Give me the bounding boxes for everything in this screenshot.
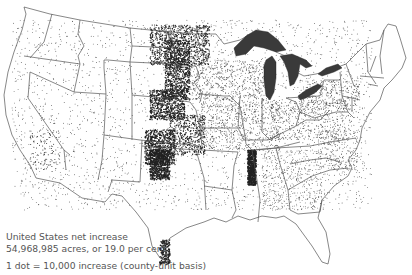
legend-dot-scale: 1 dot = 10,000 increase (county-unit bas… — [6, 260, 206, 272]
lake-huron — [280, 54, 312, 86]
lake-michigan — [264, 56, 276, 100]
dot-layer — [12, 20, 373, 266]
legend-total: 54,968,985 acres, or 19.0 per cent — [6, 243, 166, 255]
lake-ontario — [318, 64, 342, 76]
legend-title: United States net increase — [6, 231, 128, 243]
lake-superior — [234, 30, 286, 56]
